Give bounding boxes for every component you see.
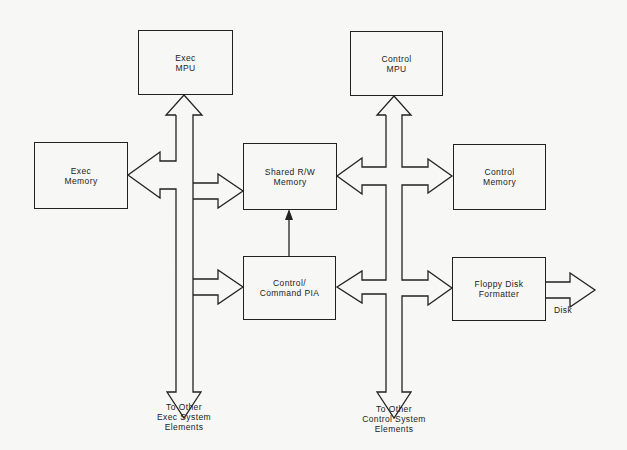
control-memory-block: Control Memory [453, 144, 546, 210]
bus-connections [0, 0, 627, 450]
control-memory-label: Control Memory [483, 167, 516, 187]
exec-other-label: To Other Exec System Elements [144, 402, 224, 432]
control-other-label: To Other Control System Elements [349, 404, 439, 434]
fdc-label: Floppy Disk Formatter [475, 279, 524, 299]
exec-mpu-block: Exec MPU [138, 30, 233, 95]
disk-arrow [545, 273, 595, 307]
shared-memory-block: Shared R/W Memory [243, 143, 337, 210]
control-bus-outline [337, 96, 452, 418]
exec-memory-label: Exec Memory [64, 166, 97, 186]
pia-label: Control/ Command PIA [260, 278, 320, 298]
fdc-block: Floppy Disk Formatter [452, 257, 546, 321]
pia-block: Control/ Command PIA [243, 256, 336, 320]
control-mpu-label: Control MPU [381, 54, 411, 74]
block-diagram: Exec MPU Control MPU Exec Memory Shared … [0, 0, 627, 450]
disk-label: Disk [548, 305, 578, 315]
exec-memory-block: Exec Memory [34, 142, 128, 209]
shared-memory-label: Shared R/W Memory [265, 167, 315, 187]
exec-mpu-label: Exec MPU [175, 53, 196, 73]
control-mpu-block: Control MPU [350, 31, 443, 96]
pia-to-shared-arrowhead [285, 209, 293, 220]
exec-bus-outline [128, 95, 243, 418]
